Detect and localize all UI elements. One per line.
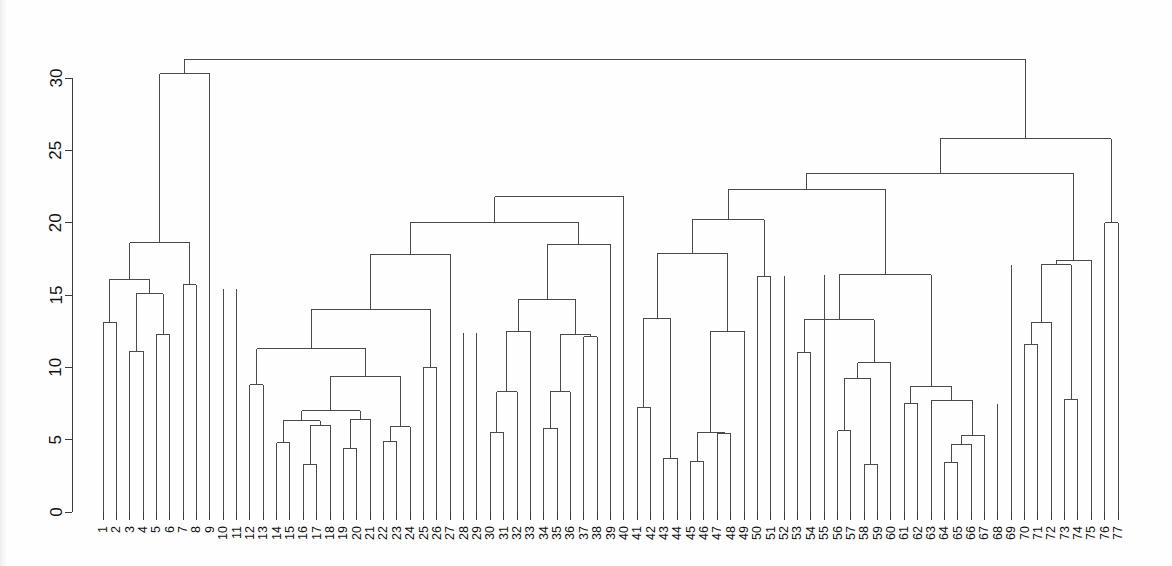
height-axis: 051015202530 bbox=[47, 69, 73, 517]
x-tick-label: 70 bbox=[1018, 526, 1032, 540]
y-tick-label: 30 bbox=[47, 69, 66, 88]
x-tick-label: 60 bbox=[884, 526, 898, 540]
x-tick-label: 77 bbox=[1111, 526, 1125, 540]
x-tick-label: 1 bbox=[96, 526, 110, 533]
x-tick-label: 39 bbox=[604, 526, 618, 540]
x-tick-label: 15 bbox=[283, 526, 297, 540]
x-tick-label: 48 bbox=[724, 526, 738, 540]
x-tick-label: 9 bbox=[203, 526, 217, 533]
x-tick-label: 47 bbox=[710, 526, 724, 540]
leaf-axis: 1234567891011121314151617181920212223242… bbox=[96, 512, 1125, 540]
x-tick-label: 64 bbox=[937, 526, 951, 540]
x-tick-label: 8 bbox=[189, 526, 203, 533]
x-tick-label: 73 bbox=[1058, 526, 1072, 540]
x-tick-label: 12 bbox=[243, 526, 257, 540]
x-tick-label: 40 bbox=[617, 526, 631, 540]
dendrogram-figure: 0510152025301234567891011121314151617181… bbox=[0, 0, 1172, 566]
x-tick-label: 19 bbox=[336, 526, 350, 540]
x-tick-label: 32 bbox=[510, 526, 524, 540]
x-tick-label: 13 bbox=[256, 526, 270, 540]
x-tick-label: 43 bbox=[657, 526, 671, 540]
x-tick-label: 55 bbox=[817, 526, 831, 540]
x-tick-label: 22 bbox=[376, 526, 390, 540]
y-tick-label: 10 bbox=[47, 358, 66, 377]
x-tick-label: 37 bbox=[577, 526, 591, 540]
y-tick-label: 0 bbox=[47, 507, 66, 516]
x-tick-label: 25 bbox=[417, 526, 431, 540]
x-tick-label: 62 bbox=[911, 526, 925, 540]
x-tick-label: 66 bbox=[964, 526, 978, 540]
x-tick-label: 24 bbox=[403, 526, 417, 540]
x-tick-label: 63 bbox=[924, 526, 938, 540]
x-tick-label: 72 bbox=[1044, 526, 1058, 540]
x-tick-label: 17 bbox=[310, 526, 324, 540]
x-tick-label: 53 bbox=[790, 526, 804, 540]
x-tick-label: 58 bbox=[857, 526, 871, 540]
x-tick-label: 52 bbox=[777, 526, 791, 540]
x-tick-label: 69 bbox=[1004, 526, 1018, 540]
x-tick-label: 30 bbox=[483, 526, 497, 540]
x-tick-label: 6 bbox=[163, 526, 177, 533]
x-tick-label: 68 bbox=[991, 526, 1005, 540]
x-tick-label: 50 bbox=[750, 526, 764, 540]
x-tick-label: 38 bbox=[590, 526, 604, 540]
y-tick-label: 5 bbox=[47, 435, 66, 444]
x-tick-label: 11 bbox=[230, 526, 244, 539]
y-tick-label: 25 bbox=[47, 141, 66, 160]
x-tick-label: 71 bbox=[1031, 526, 1045, 540]
x-tick-label: 5 bbox=[149, 526, 163, 533]
x-tick-label: 16 bbox=[296, 526, 310, 540]
x-tick-label: 36 bbox=[563, 526, 577, 540]
x-tick-label: 10 bbox=[216, 526, 230, 540]
x-tick-label: 65 bbox=[951, 526, 965, 540]
x-tick-label: 29 bbox=[470, 526, 484, 540]
x-tick-label: 51 bbox=[764, 526, 778, 540]
x-tick-label: 33 bbox=[523, 526, 537, 540]
x-tick-label: 67 bbox=[977, 526, 991, 540]
x-tick-label: 41 bbox=[630, 526, 644, 540]
x-tick-label: 21 bbox=[363, 526, 377, 540]
x-tick-label: 4 bbox=[136, 526, 150, 533]
x-tick-label: 14 bbox=[270, 526, 284, 540]
x-tick-label: 28 bbox=[457, 526, 471, 540]
x-tick-label: 74 bbox=[1071, 526, 1085, 540]
x-tick-label: 2 bbox=[109, 526, 123, 533]
x-tick-label: 35 bbox=[550, 526, 564, 540]
x-tick-label: 75 bbox=[1084, 526, 1098, 540]
x-tick-label: 18 bbox=[323, 526, 337, 540]
x-tick-label: 34 bbox=[537, 526, 551, 540]
y-tick-label: 20 bbox=[47, 213, 66, 232]
x-tick-label: 44 bbox=[670, 526, 684, 540]
x-tick-label: 49 bbox=[737, 526, 751, 540]
x-tick-label: 54 bbox=[804, 526, 818, 540]
x-tick-label: 26 bbox=[430, 526, 444, 540]
x-tick-label: 46 bbox=[697, 526, 711, 540]
x-tick-label: 31 bbox=[497, 526, 511, 540]
x-tick-label: 42 bbox=[644, 526, 658, 540]
x-tick-label: 76 bbox=[1098, 526, 1112, 540]
x-tick-label: 59 bbox=[871, 526, 885, 540]
x-tick-label: 57 bbox=[844, 526, 858, 540]
x-tick-label: 20 bbox=[350, 526, 364, 540]
x-tick-label: 27 bbox=[443, 526, 457, 540]
x-tick-label: 7 bbox=[176, 526, 190, 533]
x-tick-label: 45 bbox=[684, 526, 698, 540]
x-tick-label: 3 bbox=[123, 526, 137, 533]
x-tick-label: 61 bbox=[897, 526, 911, 540]
x-tick-label: 56 bbox=[831, 526, 845, 540]
dendrogram-plot: 0510152025301234567891011121314151617181… bbox=[0, 0, 1172, 566]
x-tick-label: 23 bbox=[390, 526, 404, 540]
y-tick-label: 15 bbox=[47, 286, 66, 305]
